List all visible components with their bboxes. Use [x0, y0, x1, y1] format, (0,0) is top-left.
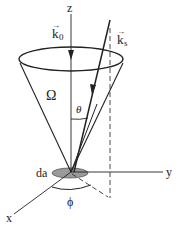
x-axis-label: x [6, 211, 12, 225]
ks-vector-line [74, 20, 110, 172]
cone-right-edge [71, 63, 123, 172]
k0-arrow-head [68, 50, 74, 60]
z-axis-label: z [67, 1, 72, 15]
vector-arrow-icon: → [52, 21, 60, 30]
da-label: da [36, 166, 48, 180]
theta-ray [71, 104, 97, 172]
phi-arc [52, 185, 91, 190]
vector-arrow-icon: → [117, 27, 125, 36]
theta-arc [71, 118, 88, 119]
k0-label: k 0 → [52, 21, 64, 42]
theta-label: θ [76, 103, 82, 115]
phi-label: ϕ [67, 195, 73, 209]
cone-left-edge [20, 63, 71, 172]
ks-label: k s → [117, 27, 128, 48]
scattering-diagram: z y x k 0 → k s → Ω θ ϕ da [0, 0, 180, 229]
y-axis-label: y [166, 165, 172, 179]
diagram-canvas: z y x k 0 → k s → Ω θ ϕ da [0, 0, 180, 229]
svg-text:s: s [124, 38, 128, 48]
solid-angle-label: Ω [46, 88, 56, 103]
svg-text:0: 0 [59, 32, 64, 42]
